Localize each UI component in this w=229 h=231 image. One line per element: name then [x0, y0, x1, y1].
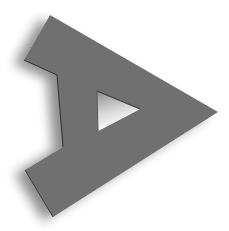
logo-shape: [24, 15, 218, 217]
logo-canvas: [0, 0, 229, 231]
play-arrow-logo-icon: [0, 0, 229, 231]
